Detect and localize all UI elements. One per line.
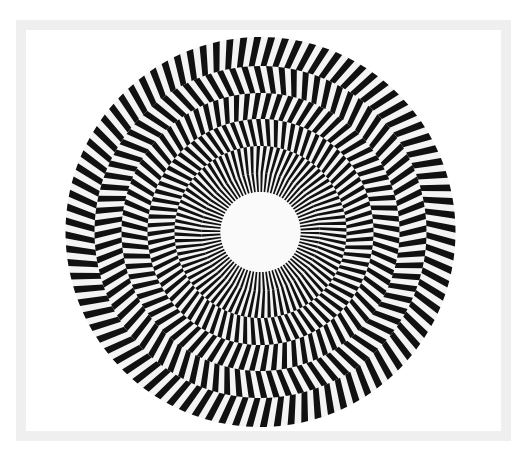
white-center-disc xyxy=(221,192,301,272)
op-art-concentric-chevron-circle xyxy=(0,0,527,458)
